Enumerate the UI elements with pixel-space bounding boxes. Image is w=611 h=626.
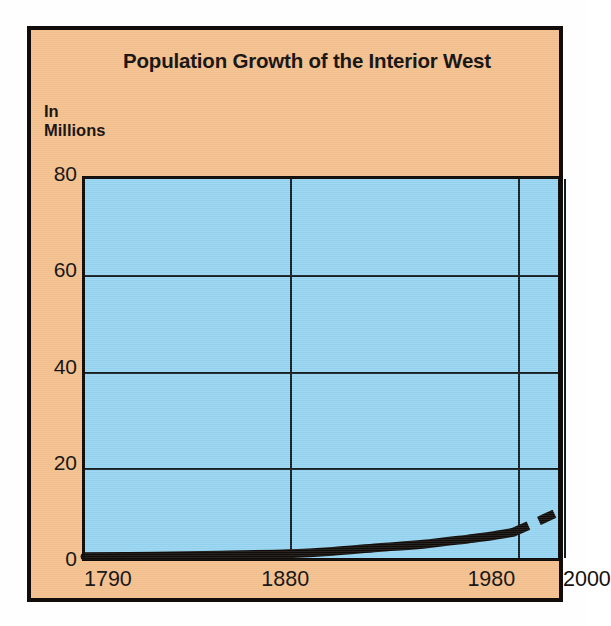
line-projected xyxy=(513,512,558,532)
y-axis-tick: 60 xyxy=(31,258,77,282)
page-title: Population Growth of the Interior West xyxy=(77,49,537,73)
y-axis-label-line2: Millions xyxy=(44,121,105,140)
y-axis-tick: 20 xyxy=(31,451,77,475)
y-axis-label: In Millions xyxy=(44,102,105,140)
x-axis-tick: 2000 xyxy=(563,567,611,592)
x-axis-tick: 1880 xyxy=(261,567,309,592)
y-axis-tick-labels: 806040200 xyxy=(31,176,77,561)
data-series-layer xyxy=(85,179,558,558)
y-axis-tick: 40 xyxy=(31,355,77,379)
plot-area xyxy=(82,176,561,561)
x-axis-tick-labels: 1790188019802000 xyxy=(31,567,567,607)
chart-panel: Population Growth of the Interior West I… xyxy=(27,26,563,602)
x-axis-tick: 1980 xyxy=(467,567,515,592)
y-axis-label-line1: In xyxy=(44,102,59,120)
line-historical xyxy=(85,532,513,556)
x-axis-tick: 1790 xyxy=(84,567,132,592)
gridline-vertical xyxy=(564,179,566,558)
y-axis-tick: 80 xyxy=(31,162,77,186)
